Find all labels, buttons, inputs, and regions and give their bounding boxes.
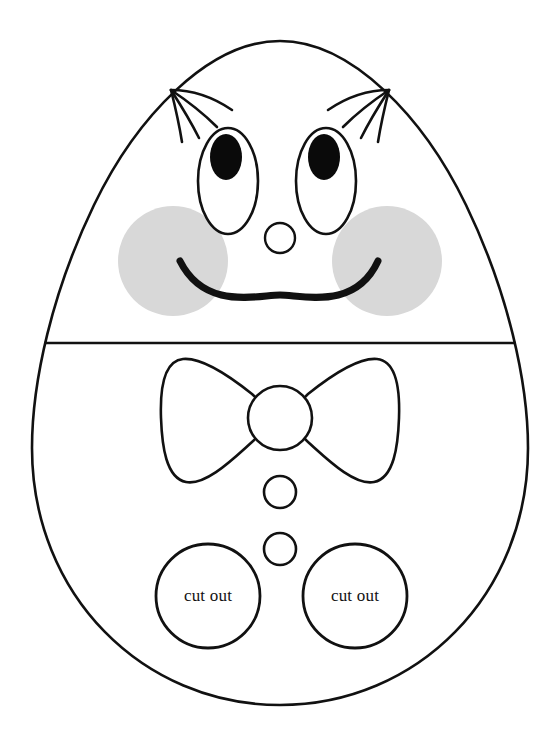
cutout-right: cut out [303, 544, 407, 648]
paper-background [0, 0, 560, 756]
button-circle-1 [264, 476, 296, 508]
left-eye-pupil [210, 134, 242, 180]
right-eye-pupil [308, 134, 340, 180]
button-circle-2 [264, 533, 296, 565]
bow-tie-knot-circle [248, 386, 312, 450]
right-cheek-blush [332, 206, 442, 316]
page-canvas: cut out cut out [0, 0, 560, 756]
cutout-left: cut out [156, 544, 260, 648]
cutout-left-label: cut out [184, 586, 232, 605]
nose-circle [265, 223, 295, 253]
egg-character-artboard: cut out cut out [0, 0, 560, 756]
cutout-right-label: cut out [331, 586, 379, 605]
